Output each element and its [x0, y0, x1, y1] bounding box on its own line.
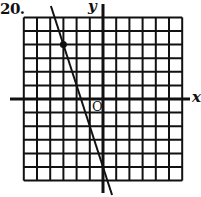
problem-number: 20. — [0, 0, 25, 18]
graph-figure: 20. y x O — [0, 0, 201, 197]
marked-point — [60, 41, 67, 48]
y-axis-label: y — [88, 0, 97, 15]
origin-label: O — [92, 99, 103, 114]
x-axis-label: x — [192, 88, 201, 106]
